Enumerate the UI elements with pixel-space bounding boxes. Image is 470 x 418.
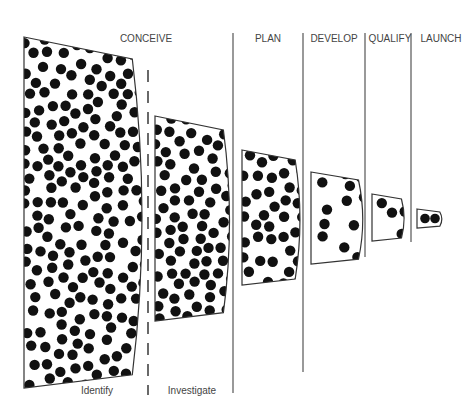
substage-label-identify: Identify [81, 385, 113, 396]
idea-funnel-diagram [0, 0, 470, 418]
stage-label-conceive: CONCEIVE [120, 33, 172, 44]
idea-dots-qualify [377, 198, 410, 239]
substage-label-investigate: Investigate [168, 385, 216, 396]
idea-dots-develop [317, 169, 369, 262]
stage-label-develop: DEVELOP [310, 33, 357, 44]
idea-dots-identify [19, 34, 152, 393]
stage-label-launch: LAUNCH [420, 33, 461, 44]
stage-label-qualify: QUALIFY [369, 33, 412, 44]
idea-dots-launch [420, 214, 440, 224]
stage-label-plan: PLAN [255, 33, 281, 44]
